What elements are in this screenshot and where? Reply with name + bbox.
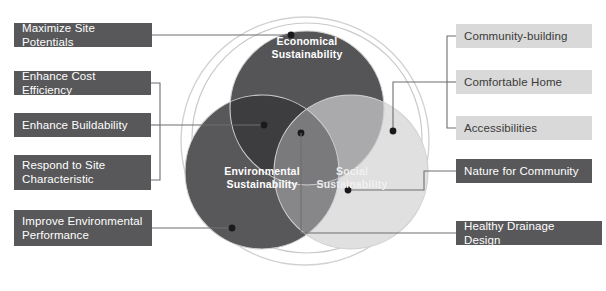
label-improve-environmental-performance[interactable]: Improve Environmental Performance — [14, 210, 152, 246]
node-economical — [288, 32, 295, 39]
label-respond-to-site-characteristic[interactable]: Respond to Site Characteristic — [14, 155, 151, 190]
node-social-upper — [390, 128, 397, 135]
sustainability-venn-diagram: Economical Sustainability Environmental … — [0, 0, 606, 291]
label-community-building[interactable]: Community-building — [456, 24, 592, 48]
label-healthy-drainage-design[interactable]: Healthy Drainage Design — [456, 221, 602, 245]
label-enhance-cost-efficiency[interactable]: Enhance Cost Efficiency — [14, 71, 151, 95]
node-economical-environmental — [261, 122, 268, 129]
label-accessibilities[interactable]: Accessibilities — [456, 116, 592, 140]
label-nature-for-community[interactable]: Nature for Community — [456, 159, 592, 183]
leader-bracket-left — [151, 83, 160, 180]
label-enhance-buildability[interactable]: Enhance Buildability — [14, 113, 151, 137]
label-maximize-site-potentials[interactable]: Maximize Site Potentials — [14, 23, 152, 47]
node-environmental-lower — [229, 225, 236, 232]
node-social-left — [345, 187, 352, 194]
label-comfortable-home[interactable]: Comfortable Home — [456, 70, 592, 94]
